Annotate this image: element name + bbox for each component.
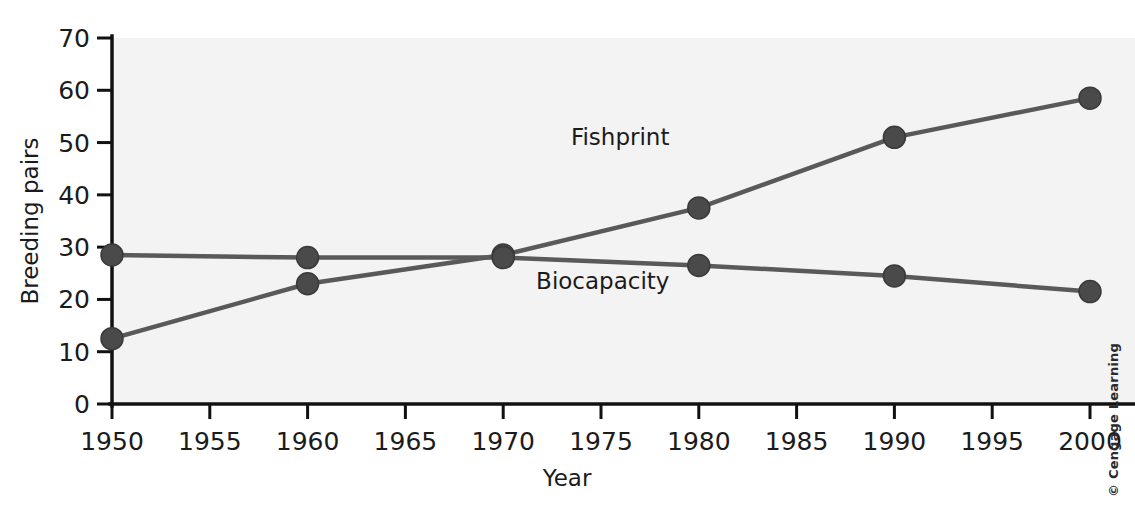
x-tick-label: 1995 — [960, 427, 1024, 456]
y-tick-label: 50 — [58, 129, 90, 158]
x-tick-label: 1970 — [471, 427, 535, 456]
y-tick-label: 0 — [74, 390, 90, 419]
line-chart: 010203040506070 195019551960196519701975… — [0, 0, 1135, 506]
x-tick-label: 1985 — [765, 427, 829, 456]
data-point-fishprint-1980 — [688, 197, 710, 219]
x-tick-label: 1960 — [276, 427, 340, 456]
copyright-credit: © Cengage Learning — [1106, 343, 1121, 497]
data-point-fishprint-1990 — [883, 126, 905, 148]
y-axis-ticks: 010203040506070 — [58, 24, 112, 419]
data-point-biocapacity-1990 — [883, 265, 905, 287]
y-tick-label: 40 — [58, 181, 90, 210]
data-point-fishprint-1950 — [101, 328, 123, 350]
x-tick-label: 1950 — [80, 427, 144, 456]
y-tick-label: 30 — [58, 233, 90, 262]
x-tick-label: 1980 — [667, 427, 731, 456]
x-tick-label: 1955 — [178, 427, 242, 456]
x-tick-label: 1965 — [374, 427, 438, 456]
chart-figure: 010203040506070 195019551960196519701975… — [0, 0, 1135, 506]
data-point-fishprint-1960 — [297, 273, 319, 295]
data-point-biocapacity-1980 — [688, 254, 710, 276]
data-point-biocapacity-2000 — [1079, 281, 1101, 303]
data-point-biocapacity-1960 — [297, 247, 319, 269]
y-tick-label: 60 — [58, 76, 90, 105]
y-tick-label: 20 — [58, 285, 90, 314]
axes — [110, 36, 1135, 406]
series-label-fishprint: Fishprint — [571, 124, 670, 150]
data-point-biocapacity-1970 — [492, 247, 514, 269]
data-point-fishprint-2000 — [1079, 87, 1101, 109]
series-label-biocapacity: Biocapacity — [536, 268, 669, 294]
y-axis-title: Breeding pairs — [17, 137, 43, 304]
x-tick-label: 1975 — [569, 427, 633, 456]
x-tick-label: 1990 — [863, 427, 927, 456]
series-annotations: FishprintBiocapacity — [536, 124, 669, 294]
y-tick-label: 70 — [58, 24, 90, 53]
data-point-biocapacity-1950 — [101, 244, 123, 266]
x-axis-ticks: 1950195519601965197019751980198519901995… — [80, 404, 1122, 456]
y-tick-label: 10 — [58, 338, 90, 367]
x-axis-title: Year — [542, 465, 592, 491]
